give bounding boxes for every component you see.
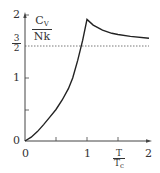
- y-tick-label-three-halves: 3 2: [12, 34, 21, 53]
- x-axis-label: T Tc: [113, 149, 125, 170]
- x-axis-arrow-icon: [146, 139, 152, 142]
- x-tick-label-0: 0: [22, 148, 29, 159]
- x-ticks: [56, 137, 118, 141]
- y-tick-label-1: 1: [13, 72, 20, 83]
- y-tick-label-2: 2: [13, 9, 20, 20]
- y-tick-label-0: 0: [13, 135, 20, 146]
- y-axis-label: CV Nk: [32, 15, 52, 42]
- x-tick-label-1: 1: [84, 148, 91, 159]
- y-ticks: [25, 15, 29, 110]
- x-tick-label-2: 2: [145, 148, 152, 159]
